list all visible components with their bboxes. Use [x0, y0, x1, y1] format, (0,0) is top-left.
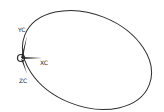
ellipse-curve[interactable] — [8, 0, 164, 112]
zc-axis-label: ZC — [19, 77, 27, 84]
drawing-canvas: YC XC ZC — [0, 0, 164, 112]
yc-axis-label: YC — [17, 26, 26, 33]
xc-axis-arrow-icon — [22, 57, 42, 59]
xc-axis-label: XC — [40, 59, 48, 66]
